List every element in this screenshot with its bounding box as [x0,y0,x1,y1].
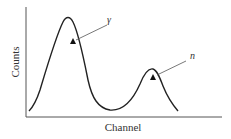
gamma-label: γ [107,14,112,25]
gamma-triangle-marker [70,38,76,44]
n-label: n [190,50,195,61]
spectrum-curve [29,18,178,112]
n-triangle-marker [150,74,156,80]
y-axis-label: Counts [9,46,21,77]
x-axis-label: Channel [105,121,142,133]
spectrum-chart: γ n Channel Counts [0,0,231,139]
gamma-pointer-line [76,25,107,40]
n-pointer-line [157,61,186,75]
